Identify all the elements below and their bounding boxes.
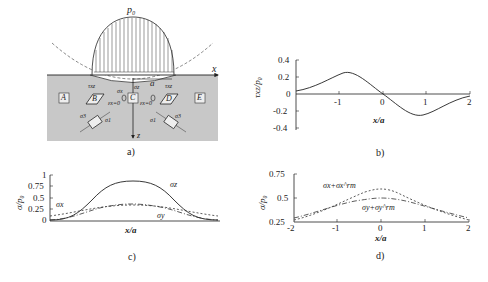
chart-d	[294, 174, 469, 222]
d-legend-sx: σx+σx^rm	[323, 181, 356, 190]
c-ytick-0: 1	[42, 170, 47, 180]
d-xtick-3: 1	[422, 223, 427, 233]
d-xtick-4: 2	[466, 223, 471, 233]
c-ylabel: σ/p₀	[14, 195, 24, 210]
caption-c: c)	[128, 251, 136, 262]
c-legend-sigma-y: σy	[157, 211, 165, 220]
d-xtick-0: -2	[287, 223, 295, 233]
figure-canvas	[0, 0, 488, 282]
sigma-1-left: σ1	[105, 117, 111, 123]
c-ytick-3: 0.25	[28, 204, 44, 214]
c-ytick-4: 0	[42, 215, 47, 225]
point-B-label: B	[92, 94, 97, 103]
d-ylabel: σ/p₀	[257, 195, 267, 210]
c-legend-sigma-z: σz	[170, 180, 177, 189]
b-ytick-4: -0.4	[273, 123, 287, 133]
tau-xz-label-D: τxz	[165, 83, 172, 89]
b-ytick-1: 0.2	[278, 72, 289, 82]
sigma-x-label: σx	[117, 88, 123, 94]
eps-x-right: εx=0	[140, 100, 152, 106]
sigma-z-label: σz	[134, 84, 139, 90]
caption-d: d)	[376, 250, 384, 261]
point-A-label: A	[61, 93, 66, 102]
x-axis-label: x	[212, 63, 216, 74]
point-D-label: D	[166, 94, 172, 103]
b-xtick-1: 0	[380, 97, 385, 107]
b-ytick-2: 0	[286, 89, 291, 99]
c-ytick-1: 0.75	[28, 181, 44, 191]
d-legend-sy: σy+σy^rm	[362, 203, 395, 212]
b-xtick-3: 2	[467, 97, 472, 107]
load-label: p₀	[127, 4, 135, 15]
chart-c	[50, 175, 220, 221]
c-ytick-2: 0.5	[33, 193, 44, 203]
d-ytick-0: 0.75	[269, 169, 285, 179]
b-ytick-0: 0.4	[278, 55, 289, 65]
b-ylabel: τxz/p₀	[252, 77, 262, 98]
d-xlabel: x/a	[375, 233, 387, 243]
z-axis-label: z	[137, 131, 140, 140]
c-legend-sigma-x: σx	[56, 200, 64, 209]
caption-b: b)	[376, 147, 384, 158]
sigma-3-left: σ3	[80, 113, 86, 119]
sigma-1-right: σ1	[150, 117, 156, 123]
d-xtick-2: 0	[378, 223, 383, 233]
point-E-label: E	[197, 93, 202, 102]
pressure-distribution	[92, 17, 174, 75]
d-xtick-1: -1	[332, 223, 340, 233]
b-xtick-2: 1	[423, 97, 428, 107]
b-ytick-3: -0.2	[273, 106, 287, 116]
point-C-label: C	[130, 93, 135, 102]
tau-xz-label-B: τxz	[88, 83, 95, 89]
a-label: a	[150, 78, 155, 88]
sigma-3-right: σ3	[175, 113, 181, 119]
half-space	[47, 75, 218, 141]
caption-a: a)	[127, 146, 135, 157]
d-ytick-2: 0.25	[269, 217, 285, 227]
eps-x-left: εx=0	[108, 100, 120, 106]
c-xlabel: x/a	[125, 225, 137, 235]
b-xlabel: x/a	[373, 115, 385, 125]
b-xtick-0: -1	[334, 97, 342, 107]
d-ytick-1: 0.5	[277, 193, 288, 203]
